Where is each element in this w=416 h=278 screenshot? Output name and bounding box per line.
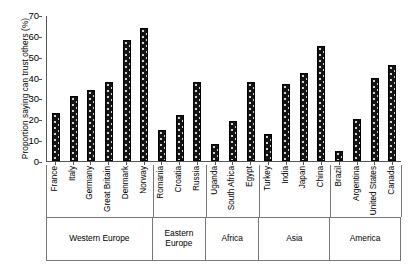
bar-slot bbox=[118, 16, 136, 161]
region-group-western-europe: Western Europe bbox=[47, 218, 153, 260]
category-label-cell: China bbox=[312, 165, 330, 217]
category-label-cell: Romania bbox=[153, 165, 171, 217]
bar-slot bbox=[206, 16, 224, 161]
bar bbox=[176, 115, 184, 161]
bar bbox=[282, 84, 290, 161]
category-label: Romania bbox=[157, 166, 165, 199]
category-label: Canada bbox=[388, 166, 396, 195]
bar bbox=[52, 113, 60, 161]
bar bbox=[123, 40, 131, 161]
category-label: India bbox=[282, 166, 290, 184]
category-label: Brazil bbox=[335, 166, 343, 186]
region-group-band: Western EuropeEastern EuropeAfricaAsiaAm… bbox=[46, 217, 401, 261]
bar-slot bbox=[136, 16, 154, 161]
bar-slot bbox=[189, 16, 207, 161]
category-label-cell: Germany bbox=[82, 165, 100, 217]
category-label: Uganda bbox=[211, 166, 219, 195]
category-label-cell: Uganda bbox=[206, 165, 224, 217]
y-tick-mark bbox=[39, 16, 42, 17]
y-tick-label: 10 bbox=[21, 136, 39, 146]
category-label: Egypt bbox=[246, 166, 254, 187]
category-label-cell: Turkey bbox=[259, 165, 277, 217]
bar bbox=[87, 90, 95, 161]
category-label-cell: Italy bbox=[64, 165, 82, 217]
category-label-cell: Denmark bbox=[117, 165, 135, 217]
bar-slot bbox=[242, 16, 260, 161]
bar bbox=[229, 121, 237, 161]
bar-slot bbox=[330, 16, 348, 161]
bar-slot bbox=[295, 16, 313, 161]
y-tick-label: 70 bbox=[21, 11, 39, 21]
bar-slot bbox=[259, 16, 277, 161]
category-label: France bbox=[51, 166, 59, 191]
y-tick-label: 0 bbox=[21, 157, 39, 167]
bar-slot bbox=[277, 16, 295, 161]
category-label-cell: Japan bbox=[295, 165, 313, 217]
y-tick-label: 50 bbox=[21, 53, 39, 63]
category-label: South Africa bbox=[228, 166, 236, 210]
bar bbox=[140, 28, 148, 161]
bar bbox=[300, 73, 308, 161]
bar bbox=[388, 65, 396, 161]
y-axis-tick-labels: 010203040506070 bbox=[21, 0, 39, 278]
bar bbox=[193, 82, 201, 161]
category-label-cell: Brazil bbox=[330, 165, 348, 217]
category-label-cell: United States bbox=[366, 165, 384, 217]
bar-slot bbox=[153, 16, 171, 161]
region-group-america: America bbox=[330, 218, 400, 260]
region-group-eastern-europe: Eastern Europe bbox=[153, 218, 206, 260]
bar bbox=[105, 82, 113, 161]
region-group-africa: Africa bbox=[206, 218, 259, 260]
category-label: Norway bbox=[140, 166, 148, 194]
y-tick-label: 20 bbox=[21, 115, 39, 125]
region-separator bbox=[153, 165, 154, 217]
y-tick-mark bbox=[39, 162, 42, 163]
bar-slot bbox=[100, 16, 118, 161]
category-label-cell: Norway bbox=[135, 165, 153, 217]
bar bbox=[317, 46, 325, 161]
bar-slot bbox=[313, 16, 331, 161]
bar bbox=[264, 134, 272, 161]
y-tick-mark bbox=[39, 37, 42, 38]
bar bbox=[211, 144, 219, 161]
category-label: China bbox=[317, 166, 325, 187]
category-label-cell: Russia bbox=[188, 165, 206, 217]
region-band-edge bbox=[401, 165, 402, 217]
region-group-asia: Asia bbox=[259, 218, 330, 260]
bar-slot bbox=[224, 16, 242, 161]
bar bbox=[353, 119, 361, 161]
y-tick-label: 40 bbox=[21, 74, 39, 84]
region-separator bbox=[259, 165, 260, 217]
y-tick-label: 30 bbox=[21, 94, 39, 104]
category-label: Germany bbox=[86, 166, 94, 200]
bar bbox=[247, 82, 255, 161]
y-tick-label: 60 bbox=[21, 32, 39, 42]
plot-area bbox=[46, 16, 401, 162]
category-label-cell: Croatia bbox=[170, 165, 188, 217]
bar-slot bbox=[47, 16, 65, 161]
category-label-cell: Argentina bbox=[348, 165, 366, 217]
x-axis-category-labels: FranceItalyGermanyGreat BritainDenmarkNo… bbox=[46, 165, 401, 217]
bar-chart-figure: Proportion saying can trust others (%) 0… bbox=[0, 0, 416, 278]
bar-slot bbox=[65, 16, 83, 161]
bar bbox=[70, 96, 78, 161]
category-label: Turkey bbox=[264, 166, 272, 191]
region-band-edge bbox=[46, 165, 47, 217]
bar bbox=[335, 151, 343, 161]
region-separator bbox=[330, 165, 331, 217]
category-label-cell: Canada bbox=[383, 165, 401, 217]
category-label: Croatia bbox=[175, 166, 183, 192]
bar-series bbox=[47, 16, 401, 161]
bar-slot bbox=[348, 16, 366, 161]
category-label: United States bbox=[370, 166, 378, 215]
y-tick-mark bbox=[39, 58, 42, 59]
category-label-cell: Egypt bbox=[241, 165, 259, 217]
category-label-cell: South Africa bbox=[224, 165, 242, 217]
bar-slot bbox=[366, 16, 384, 161]
y-tick-mark bbox=[39, 99, 42, 100]
bar bbox=[158, 130, 166, 161]
bar bbox=[371, 78, 379, 161]
category-label: Japan bbox=[299, 166, 307, 188]
bar-slot bbox=[383, 16, 401, 161]
category-label: Denmark bbox=[122, 166, 130, 199]
